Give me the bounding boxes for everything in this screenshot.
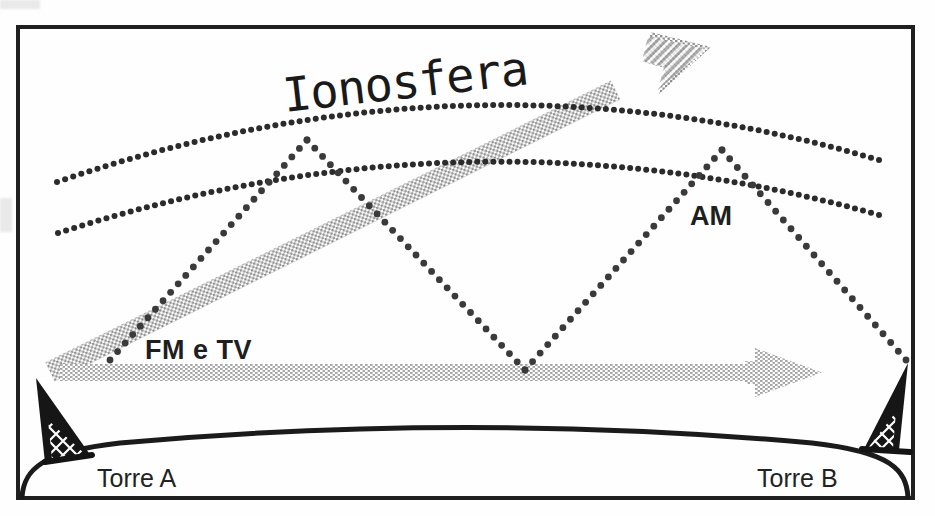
tower-a: [36, 378, 92, 463]
tower-a-label: Torre A: [97, 464, 177, 492]
fm-tv-label: FM e TV: [145, 335, 252, 365]
am-label: AM: [690, 201, 732, 231]
ionosphere-propagation-diagram: Ionosfera AM FM e TV Torre A Torre B: [0, 0, 935, 516]
tower-b-label: Torre B: [757, 464, 838, 492]
diagram-canvas: Ionosfera AM FM e TV Torre A Torre B: [0, 0, 935, 516]
tower-b: [862, 363, 910, 452]
